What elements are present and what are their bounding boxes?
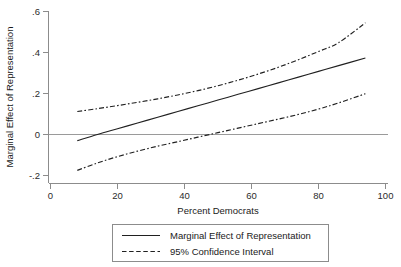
x-tick-label-3: 60 <box>246 190 257 201</box>
x-tick-label-4: 80 <box>313 190 324 201</box>
y-tick-label-3: 0 <box>35 129 40 140</box>
y-tick-label-4: -.2 <box>29 170 40 181</box>
x-tick-label-1: 20 <box>112 190 123 201</box>
y-tick-label-1: .4 <box>32 47 40 58</box>
legend-label-marginal-effect: Marginal Effect of Representation <box>170 230 311 241</box>
marginal-effect-plot: .6 .4 .2 0 -.2 0 20 40 60 80 100 Percent… <box>0 0 401 267</box>
x-axis-title: Percent Democrats <box>177 205 259 216</box>
y-axis-title: Marginal Effect of Representation <box>4 27 15 168</box>
legend-label-confidence-interval: 95% Confidence Interval <box>170 246 274 257</box>
x-tick-label-5: 100 <box>378 190 394 201</box>
x-tick-label-2: 40 <box>179 190 190 201</box>
y-tick-label-0: .6 <box>32 6 40 17</box>
x-tick-label-0: 0 <box>48 190 53 201</box>
y-tick-label-2: .2 <box>32 88 40 99</box>
chart-legend: Marginal Effect of Representation 95% Co… <box>113 225 329 262</box>
chart-container: .6 .4 .2 0 -.2 0 20 40 60 80 100 Percent… <box>0 0 401 267</box>
